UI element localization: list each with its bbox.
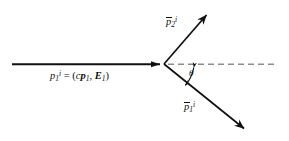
incoming-p-superscript: i (59, 69, 61, 78)
scattering-angle-label: θ (189, 69, 193, 78)
outgoing-lower-ray (164, 64, 244, 129)
p2-overbar-group: p (166, 17, 171, 28)
p2-superscript: i (175, 15, 177, 24)
outgoing-momentum-p2-label: p2i (166, 16, 177, 29)
p1-superscript: i (193, 100, 195, 109)
scattering-diagram-canvas (0, 0, 289, 141)
outgoing-momentum-p1-label: p1i (184, 101, 195, 114)
p1-overbar-group: p (184, 102, 189, 113)
overbar-icon (166, 17, 172, 18)
scattering-diagram-figure: p1i = (cp1, E1) p2i p1i θ (0, 0, 289, 141)
overbar-icon (184, 102, 190, 103)
close-paren: ) (106, 70, 110, 81)
incoming-four-momentum-label: p1i = (cp1, E1) (50, 70, 109, 83)
p1-base: p (184, 101, 189, 112)
energy-base: E (95, 70, 102, 81)
p2-base: p (166, 16, 171, 27)
comma-separator: , (90, 70, 93, 81)
equals-sign: = (64, 70, 70, 81)
